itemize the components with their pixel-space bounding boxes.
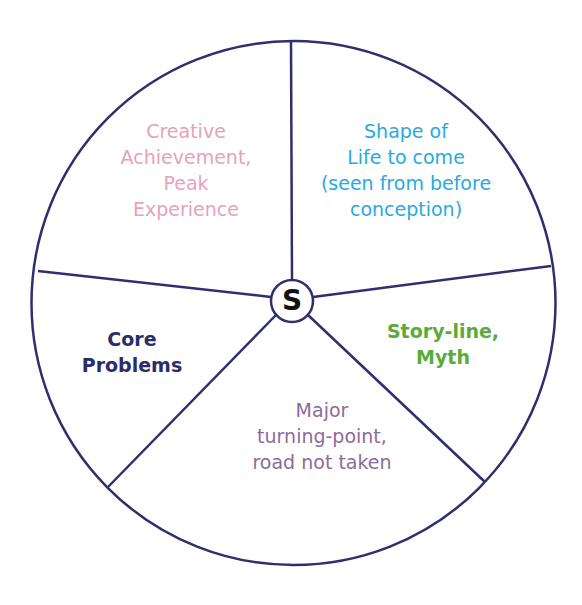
divider-left <box>38 271 271 297</box>
segment-core-problems: Core Problems <box>82 326 182 378</box>
segment-line: Life to come <box>321 144 491 170</box>
segment-line: Story-line, <box>387 318 499 344</box>
segment-line: Major <box>252 397 391 423</box>
segment-line: Core <box>82 326 182 352</box>
segment-line: Problems <box>82 352 182 378</box>
divider-top <box>291 41 292 280</box>
segment-line: Shape of <box>321 118 491 144</box>
segment-line: Experience <box>121 196 252 222</box>
segment-story-line: Story-line, Myth <box>387 318 499 370</box>
segment-line: turning-point, <box>252 423 391 449</box>
segment-line: Peak <box>121 170 252 196</box>
segment-line: (seen from before <box>321 170 491 196</box>
center-label: S <box>282 284 302 317</box>
segment-line: conception) <box>321 196 491 222</box>
segment-line: Creative <box>121 118 252 144</box>
segment-line: Achievement, <box>121 144 252 170</box>
segment-creative-achievement: Creative Achievement, Peak Experience <box>121 118 252 222</box>
segment-turning-point: Major turning-point, road not taken <box>252 397 391 475</box>
segment-line: road not taken <box>252 449 391 475</box>
segment-shape-of-life: Shape of Life to come (seen from before … <box>321 118 491 222</box>
segment-line: Myth <box>387 344 499 370</box>
divider-right <box>313 266 551 297</box>
